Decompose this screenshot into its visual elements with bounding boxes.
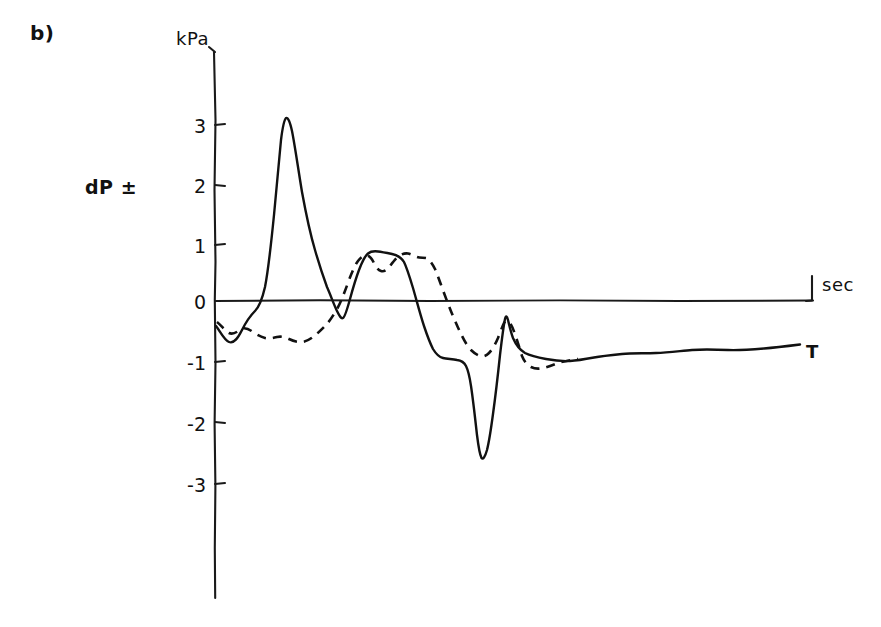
y-tick-label-3: 3 — [194, 115, 206, 137]
y-axis-unit-label: kPa — [176, 28, 209, 49]
y-tick-neg3 — [215, 483, 225, 484]
figure-panel-b: b) kPa dP ± 3 2 1 0 -1 -2 -3 sec T — [0, 0, 881, 627]
y-tick-label-neg2: -2 — [187, 413, 206, 435]
y-tick-3 — [215, 124, 225, 125]
y-tick-label-neg3: -3 — [187, 474, 206, 496]
y-axis-cap — [209, 47, 215, 52]
series-solid-curve — [216, 118, 800, 459]
y-tick-label-neg1: -1 — [187, 352, 206, 374]
y-tick-neg2 — [215, 422, 225, 423]
y-tick-1 — [215, 244, 225, 245]
y-axis — [214, 52, 216, 598]
y-tick-2 — [215, 185, 225, 186]
x-axis-end-serif — [806, 301, 813, 302]
y-tick-neg1 — [215, 361, 225, 362]
y-tick-label-2: 2 — [194, 175, 206, 197]
x-axis-symbol-label: T — [806, 341, 819, 362]
y-tick-label-1: 1 — [194, 235, 206, 257]
panel-label: b) — [30, 21, 54, 45]
hand-drawn-pressure-chart: b) kPa dP ± 3 2 1 0 -1 -2 -3 sec T — [0, 0, 881, 627]
x-axis-zero-line — [215, 300, 812, 301]
x-axis-unit-label: sec — [822, 274, 854, 295]
y-axis-title: dP ± — [85, 176, 137, 198]
y-tick-label-0: 0 — [194, 291, 206, 313]
